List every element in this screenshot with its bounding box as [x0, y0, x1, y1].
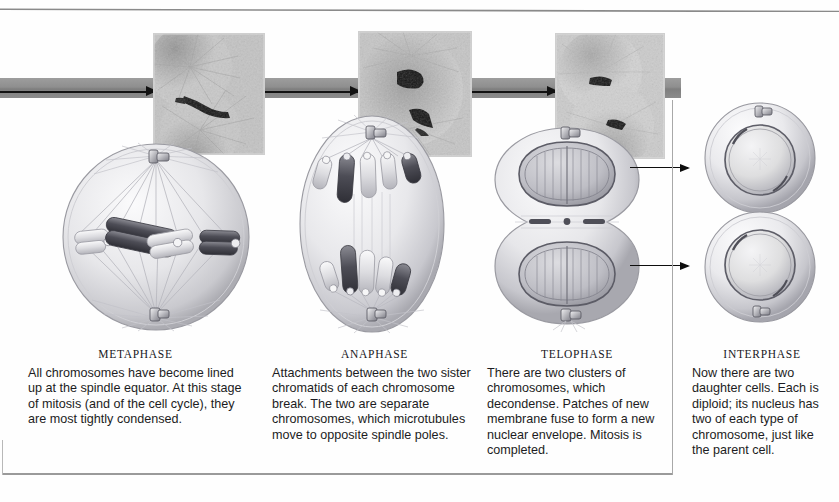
arrow-shaft	[0, 91, 156, 93]
caption-heading-interphase: INTERPHASE	[692, 348, 832, 360]
process-arrow-band-2	[263, 78, 360, 98]
micrograph-metaphase	[153, 33, 265, 155]
caption-anaphase: ANAPHASE Attachments between the two sis…	[272, 348, 477, 443]
caption-body-telophase: There are two clusters of chromosomes, w…	[487, 366, 667, 458]
centriole-top	[755, 106, 772, 117]
caption-metaphase: METAPHASE All chromosomes have become li…	[28, 348, 243, 428]
figure-bottom-border	[2, 473, 672, 475]
caption-telophase: TELOPHASE There are two clusters of chro…	[487, 348, 667, 458]
illustration-interphase	[695, 100, 825, 325]
illustration-telophase	[487, 126, 647, 326]
process-arrow-band-3	[470, 78, 557, 98]
process-arrow-band-1	[0, 78, 156, 98]
nucleus-top	[519, 142, 615, 206]
nucleus-bottom	[519, 242, 615, 306]
illustration-anaphase	[288, 112, 458, 337]
daughter-cell-bottom	[705, 212, 815, 322]
arrow-shaft	[470, 91, 557, 93]
centrosome-top	[561, 127, 580, 139]
figure-left-border	[2, 440, 3, 475]
centriole-bottom	[753, 306, 770, 317]
arrow-head-icon	[680, 262, 690, 270]
arrow-to-daughter-cell-top	[630, 163, 688, 173]
caption-heading-anaphase: ANAPHASE	[272, 348, 477, 360]
top-divider-rule	[0, 8, 839, 12]
caption-body-anaphase: Attachments between the two sister chrom…	[272, 366, 477, 443]
caption-body-interphase: Now there are two daughter cells. Each i…	[692, 366, 832, 458]
caption-heading-metaphase: METAPHASE	[28, 348, 243, 360]
midbody	[529, 218, 605, 225]
panel-divider-line	[672, 100, 673, 475]
caption-heading-telophase: TELOPHASE	[487, 348, 667, 360]
arrow-shaft	[263, 91, 360, 93]
caption-body-metaphase: All chromosomes have become lined up at …	[28, 366, 243, 428]
caption-interphase: INTERPHASE Now there are two daughter ce…	[692, 348, 832, 458]
daughter-cell-top	[705, 103, 815, 213]
arrow-to-daughter-cell-bottom	[630, 261, 688, 271]
arrow-head-icon	[680, 164, 690, 172]
illustration-metaphase	[52, 140, 267, 335]
